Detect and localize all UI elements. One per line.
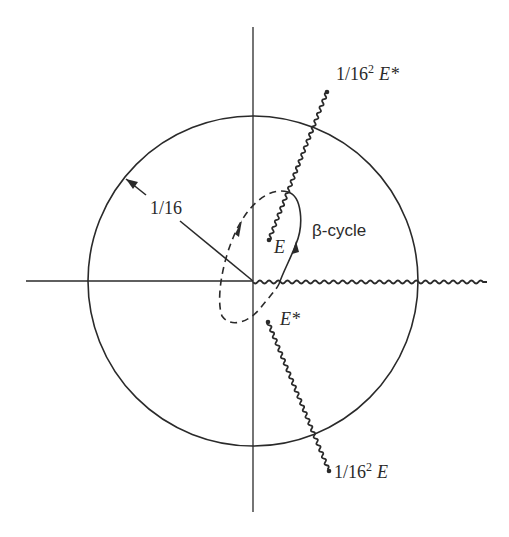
radius-line (180, 221, 253, 281)
point-e-star (266, 320, 271, 325)
bottom-cut-label-sup: 2 (366, 460, 372, 474)
bottom-cut-label-frac: 1/16 (334, 462, 366, 482)
point-top-end (325, 90, 330, 95)
point-bottom-end (327, 469, 332, 474)
top-cut-label-var: E* (378, 64, 399, 84)
point-e-star-label: E* (279, 309, 300, 329)
top-cut-label: 1/162E* (336, 62, 399, 84)
branch-cut-real-axis (253, 281, 487, 284)
point-e-label: E (273, 237, 285, 257)
bottom-cut-label: 1/162E (334, 460, 388, 482)
branch-cut-upper (269, 92, 327, 240)
branch-cut-lower (267, 322, 329, 471)
top-cut-label-sup: 2 (368, 62, 374, 76)
top-cut-label-frac: 1/16 (336, 64, 368, 84)
radius-label: 1/16 (150, 198, 182, 218)
beta-cycle-label: β-cycle (312, 221, 366, 240)
beta-cycle-arrow-solid (292, 241, 299, 254)
point-e (267, 238, 272, 243)
beta-cycle-arrow-dashed (235, 220, 242, 237)
bottom-cut-label-var: E (376, 462, 388, 482)
branch-cut-diagram: 1/16 1/162E* 1/162E E E* β-cycle (0, 0, 509, 537)
